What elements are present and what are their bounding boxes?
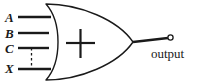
- input-label-c: C: [5, 42, 14, 55]
- input-label-x: X: [5, 62, 14, 75]
- input-label-b: B: [5, 27, 14, 40]
- input-label-a: A: [5, 11, 14, 24]
- logic-gate-diagram: A B C X output: [0, 0, 199, 84]
- output-wire: [133, 38, 168, 42]
- gate-schematic-svg: [0, 0, 199, 84]
- output-terminal-circle: [168, 35, 173, 40]
- output-label: output: [151, 47, 184, 60]
